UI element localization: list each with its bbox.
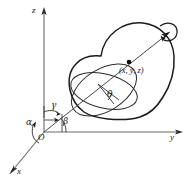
beta-label: β xyxy=(63,117,68,126)
alpha-label: α xyxy=(26,118,32,127)
point-marker xyxy=(127,60,132,65)
point-label: (x, y, z) xyxy=(119,66,144,75)
z-axis-label: z xyxy=(32,6,36,15)
gamma-label: γ xyxy=(51,101,56,110)
theta-label: θ xyxy=(107,90,112,99)
y-axis-label: y xyxy=(170,133,174,142)
y-axis xyxy=(44,129,183,134)
x-axis-label: x xyxy=(17,167,21,176)
rotation-diagram xyxy=(0,0,192,185)
direction-angle-arcs xyxy=(31,106,66,143)
origin-label: O xyxy=(38,133,45,142)
